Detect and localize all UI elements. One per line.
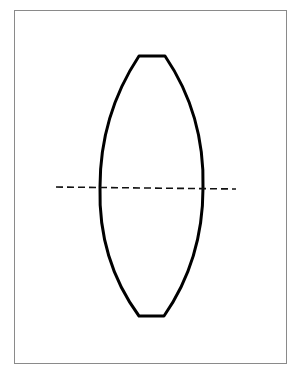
diagram-frame [15,11,287,364]
lens-diagram [0,0,301,375]
